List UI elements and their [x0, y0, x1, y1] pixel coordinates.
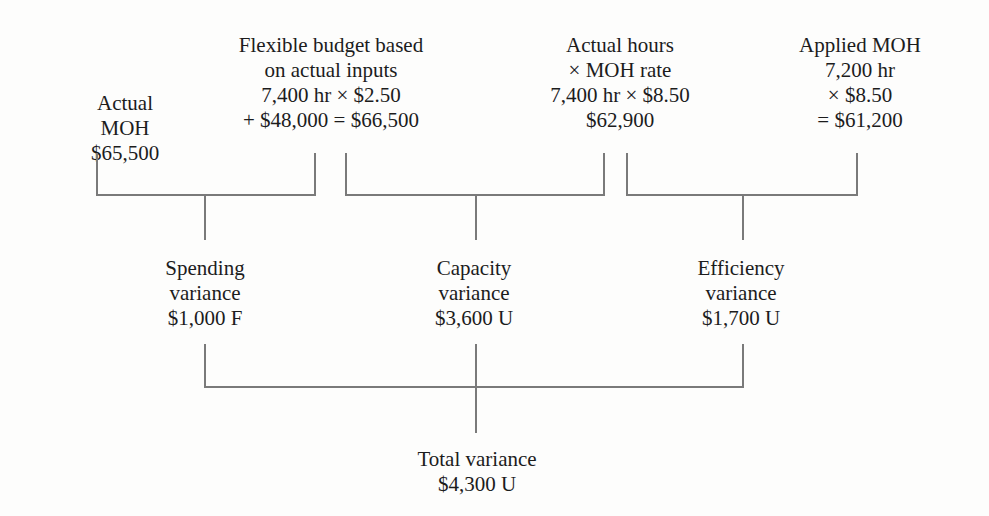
efficiency-variance: Efficiency variance $1,700 U [697, 256, 784, 331]
efficiency-bracket-left [626, 153, 628, 196]
total-bracket-right [742, 344, 744, 388]
spending-bracket-stem [204, 194, 206, 240]
efficiency-variance-label-line2: variance [697, 281, 784, 306]
spending-bracket-left [96, 153, 98, 196]
applied-moh-hours: 7,200 hr [799, 58, 921, 83]
applied-moh-rate: × $8.50 [799, 83, 921, 108]
flexible-budget-label-line1: Flexible budget based [239, 33, 423, 58]
efficiency-variance-value: $1,700 U [697, 306, 784, 331]
spending-variance-label-line1: Spending [165, 256, 244, 281]
actual-hours-formula: 7,400 hr × $8.50 [550, 83, 690, 108]
flexible-budget-label-line2: on actual inputs [239, 58, 423, 83]
total-variance: Total variance $4,300 U [417, 447, 536, 497]
actual-hours-rate-column: Actual hours × MOH rate 7,400 hr × $8.50… [550, 33, 690, 133]
actual-hours-label-line2: × MOH rate [550, 58, 690, 83]
actual-hours-label-line1: Actual hours [550, 33, 690, 58]
actual-hours-value: $62,900 [550, 108, 690, 133]
flexible-budget-formula: 7,400 hr × $2.50 [239, 83, 423, 108]
capacity-variance-value: $3,600 U [435, 306, 513, 331]
actual-moh-value: $65,500 [91, 141, 159, 166]
total-bracket-middle [475, 344, 477, 388]
actual-moh-column: Actual MOH $65,500 [91, 91, 159, 166]
capacity-variance: Capacity variance $3,600 U [435, 256, 513, 331]
capacity-variance-label-line1: Capacity [435, 256, 513, 281]
flexible-budget-value: + $48,000 = $66,500 [239, 108, 423, 133]
actual-moh-label-line1: Actual [91, 91, 159, 116]
efficiency-variance-label-line1: Efficiency [697, 256, 784, 281]
spending-variance: Spending variance $1,000 F [165, 256, 244, 331]
capacity-variance-label-line2: variance [435, 281, 513, 306]
flexible-budget-column: Flexible budget based on actual inputs 7… [239, 33, 423, 133]
total-bracket-bar [204, 386, 744, 388]
spending-bracket-right [314, 153, 316, 196]
spending-bracket-bar [96, 194, 316, 196]
capacity-bracket-stem [475, 194, 477, 240]
efficiency-bracket-right [856, 153, 858, 196]
total-variance-value: $4,300 U [417, 472, 536, 497]
spending-variance-value: $1,000 F [165, 306, 244, 331]
capacity-bracket-left [345, 153, 347, 196]
applied-moh-column: Applied MOH 7,200 hr × $8.50 = $61,200 [799, 33, 921, 133]
actual-moh-label-line2: MOH [91, 116, 159, 141]
spending-variance-label-line2: variance [165, 281, 244, 306]
applied-moh-label: Applied MOH [799, 33, 921, 58]
capacity-bracket-right [603, 153, 605, 196]
efficiency-bracket-stem [742, 194, 744, 240]
applied-moh-value: = $61,200 [799, 108, 921, 133]
total-variance-label: Total variance [417, 447, 536, 472]
total-bracket-stem [475, 386, 477, 433]
total-bracket-left [204, 344, 206, 388]
